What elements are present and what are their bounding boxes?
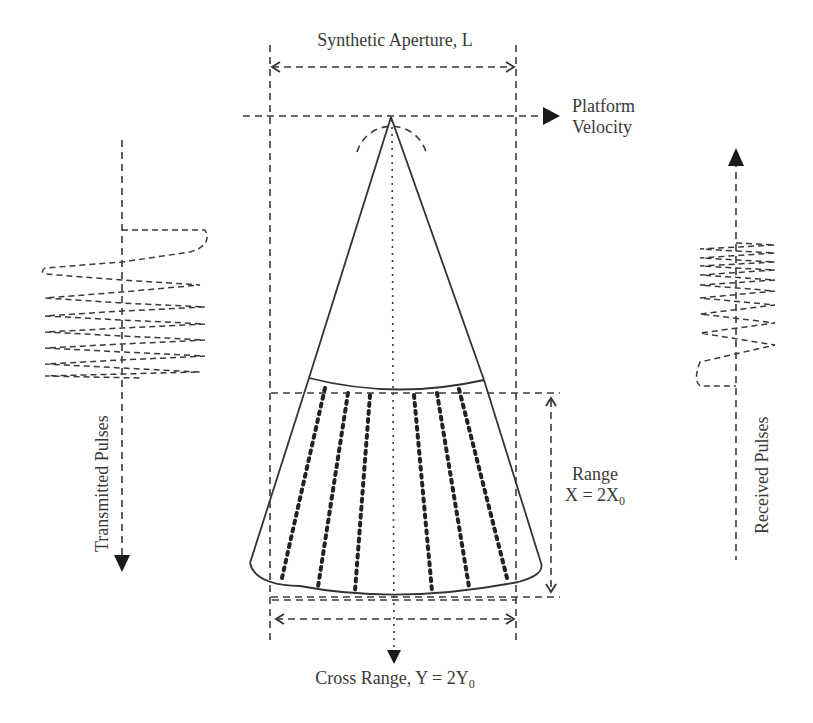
cross-range-label: Cross Range, Y = 2Y0 xyxy=(300,668,490,692)
synthetic-aperture-dimension xyxy=(270,45,516,640)
range-label: Range X = 2X0 xyxy=(560,464,630,508)
sar-geometry-diagram xyxy=(0,0,813,723)
synthetic-aperture-label: Synthetic Aperture, L xyxy=(300,30,490,51)
footprint-beam-lines xyxy=(282,388,507,591)
transmitted-pulses-label: Transmitted Pulses xyxy=(92,415,113,552)
range-formula: X = 2X xyxy=(565,485,619,505)
range-label-line2: X = 2X0 xyxy=(560,485,630,509)
platform-velocity-arrow xyxy=(243,107,560,125)
cross-range-formula-subscript: 0 xyxy=(469,677,475,691)
received-pulses-label: Received Pulses xyxy=(752,417,773,534)
platform-velocity-line2: Velocity xyxy=(572,117,652,138)
center-axis xyxy=(387,120,401,664)
cross-range-formula: Cross Range, Y = 2Y xyxy=(315,668,468,688)
platform-velocity-label: Platform Velocity xyxy=(572,96,652,137)
transmitted-pulses-waveform xyxy=(43,140,208,572)
range-label-line1: Range xyxy=(560,464,630,485)
platform-velocity-line1: Platform xyxy=(572,96,652,117)
range-formula-subscript: 0 xyxy=(619,494,625,508)
